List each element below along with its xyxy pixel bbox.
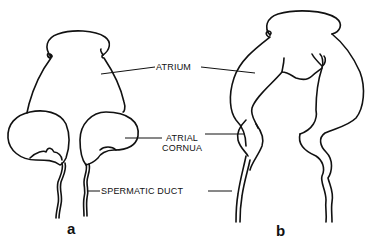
- panel-label-b: b: [276, 222, 285, 239]
- atrium-b-inner-stem: [300, 68, 322, 134]
- panel-label-a: a: [67, 220, 76, 237]
- atrium-leader-a: [101, 67, 155, 74]
- label-cornua: CORNUA: [162, 143, 202, 153]
- cornu-b-right: [250, 124, 263, 170]
- duct-b-2: [240, 160, 250, 222]
- figure: ATRIUM ATRIAL CORNUA SPERMATIC DUCT a b: [0, 0, 370, 245]
- atrium-a-outline: [27, 31, 125, 113]
- label-atrial: ATRIAL: [166, 133, 198, 143]
- label-atrium: ATRIUM: [156, 62, 191, 72]
- leader-lines: [88, 67, 255, 191]
- atrium-a-notch-right: [101, 49, 103, 55]
- panel-b-drawing: [230, 11, 363, 222]
- right-duct-a-2: [87, 164, 90, 216]
- atrium-b-top-lobe: [267, 11, 341, 35]
- atrium-leader-b: [201, 67, 255, 73]
- anatomical-diagram: ATRIUM ATRIAL CORNUA SPERMATIC DUCT a b: [0, 0, 370, 245]
- atrium-b-left-wall: [230, 31, 271, 146]
- left-cornu-a-fold: [30, 148, 62, 160]
- label-spermatic-duct: SPERMATIC DUCT: [101, 186, 183, 196]
- atrium-b-right-wall: [321, 34, 364, 222]
- left-cornu-a: [8, 111, 69, 165]
- atrium-b-inner-fold: [282, 54, 323, 79]
- cornu-b-bulge: [237, 120, 248, 156]
- atrium-b-inner-left: [252, 72, 282, 128]
